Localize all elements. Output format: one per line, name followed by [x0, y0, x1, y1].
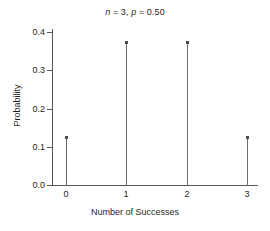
data-stem [247, 137, 248, 185]
y-axis-tick-label: 0.3 [0, 66, 45, 75]
x-axis-title: Number of Successes [0, 207, 270, 218]
data-stem [66, 137, 67, 185]
y-axis-line [52, 29, 53, 186]
y-axis-tick-label: 0.1 [0, 143, 45, 152]
data-stem [126, 42, 127, 185]
data-point-marker [125, 41, 128, 44]
data-point-marker [65, 136, 68, 139]
x-axis-tick-label: 2 [167, 189, 207, 199]
y-axis-tick-label: 0.0 [0, 181, 45, 190]
data-stem [187, 42, 188, 185]
binomial-probability-chart: n = 3, p = 0.50 0.00.10.20.30.40123 Numb… [0, 0, 270, 231]
data-point-marker [186, 41, 189, 44]
y-axis-tick [47, 185, 52, 186]
y-axis-tick [47, 109, 52, 110]
title-n-value: = 3, [110, 7, 131, 17]
chart-title: n = 3, p = 0.50 [0, 7, 270, 18]
y-axis-tick-label: 0.4 [0, 28, 45, 37]
y-axis-tick [47, 70, 52, 71]
title-p-value: = 0.50 [136, 7, 164, 17]
x-axis-tick-label: 1 [106, 189, 146, 199]
y-axis-title: Probability [12, 46, 23, 166]
x-axis-line [52, 185, 258, 186]
y-axis-tick [47, 147, 52, 148]
x-axis-tick-label: 3 [227, 189, 267, 199]
data-point-marker [246, 136, 249, 139]
x-axis-tick-label: 0 [46, 189, 86, 199]
y-axis-tick [47, 32, 52, 33]
y-axis-tick-label: 0.2 [0, 105, 45, 114]
